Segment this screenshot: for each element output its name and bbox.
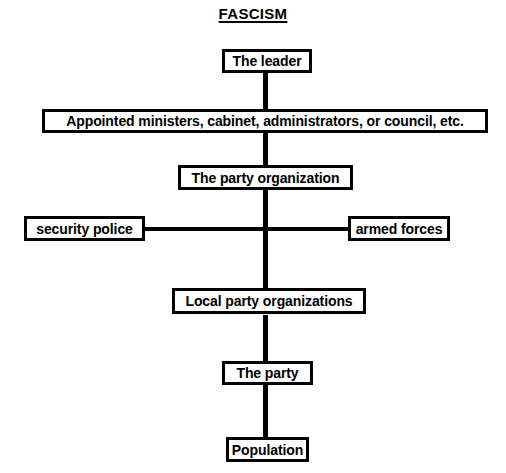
edge-party-to-population xyxy=(263,383,268,439)
edge-party-org-to-security-police xyxy=(143,227,265,231)
node-the-leader[interactable]: The leader xyxy=(222,49,312,73)
edge-local-org-to-party xyxy=(263,315,268,363)
fascism-hierarchy-diagram: FASCISM The leader Appointed ministers, … xyxy=(0,0,506,473)
edge-leader-to-ministers xyxy=(263,70,268,112)
node-local-party-organizations[interactable]: Local party organizations xyxy=(172,288,366,314)
node-the-party-organization[interactable]: The party organization xyxy=(178,165,353,190)
node-population[interactable]: Population xyxy=(226,437,309,462)
node-security-police[interactable]: security police xyxy=(24,216,145,241)
edge-ministers-to-party-org xyxy=(263,130,268,167)
node-armed-forces[interactable]: armed forces xyxy=(348,216,450,241)
edge-party-org-to-local-org xyxy=(263,188,268,299)
node-the-party[interactable]: The party xyxy=(222,361,313,385)
edge-party-org-to-armed-forces xyxy=(265,227,350,231)
diagram-title: FASCISM xyxy=(0,5,506,22)
node-appointed-ministers[interactable]: Appointed ministers, cabinet, administra… xyxy=(42,109,488,133)
